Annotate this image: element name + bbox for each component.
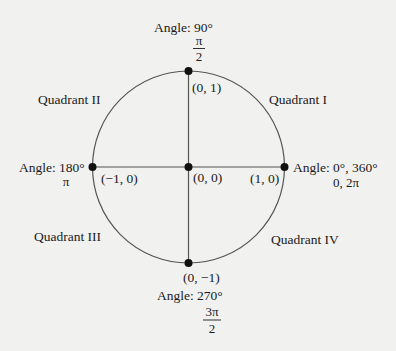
point-bottom (185, 259, 193, 267)
quadrant-2-label: Quadrant II (38, 92, 101, 107)
diagram-canvas: Angle: 90° π 2 (0, 1) Angle: 180° π (−1,… (0, 0, 396, 351)
point-left (89, 163, 97, 171)
angle-label-left: Angle: 180° (19, 160, 85, 175)
radian-right: 0, 2π (333, 175, 360, 190)
angle-label-top: Angle: 90° (154, 20, 213, 35)
angle-label-right: Angle: 0°, 360° (293, 160, 378, 175)
quadrant-3-label: Quadrant III (34, 229, 102, 244)
point-top (185, 67, 193, 75)
unit-circle-diagram: Angle: 90° π 2 (0, 1) Angle: 180° π (−1,… (0, 0, 396, 351)
quadrant-1-label: Quadrant I (269, 92, 328, 107)
coords-origin: (0, 0) (193, 170, 222, 185)
coords-right: (1, 0) (250, 171, 279, 186)
radian-den-bottom: 2 (209, 321, 216, 336)
coords-bottom: (0, −1) (183, 270, 220, 285)
radian-num-top: π (196, 33, 203, 48)
point-origin (185, 163, 193, 171)
coords-top: (0, 1) (192, 80, 221, 95)
coords-left: (−1, 0) (101, 171, 138, 186)
point-right (281, 163, 289, 171)
quadrant-4-label: Quadrant IV (271, 232, 339, 247)
angle-label-bottom: Angle: 270° (157, 288, 223, 303)
radian-left: π (63, 174, 70, 189)
radian-num-bottom: 3π (205, 304, 219, 319)
radian-den-top: 2 (196, 49, 203, 64)
